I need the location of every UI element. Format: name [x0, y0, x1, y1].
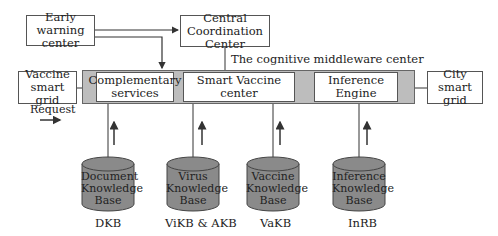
inrb-label: InRB	[348, 216, 377, 230]
dkb-label: DKB	[95, 216, 121, 230]
city-smart-grid-box: City smart grid	[427, 71, 483, 104]
vikb-akb-label: ViKB & AKB	[165, 216, 237, 230]
request-label: Request	[30, 103, 76, 116]
inference-knowledge-base-label: Inference Knowledge Base	[332, 171, 386, 207]
city-smart-grid-label: City smart grid	[428, 68, 482, 107]
smart-vaccine-center-box: Smart Vaccine center	[183, 72, 295, 102]
inference-engine-label: Inference Engine	[315, 74, 397, 100]
early-warning-center-box: Early warning center	[26, 15, 95, 46]
vakb-label: VaKB	[260, 216, 291, 230]
vaccine-smart-grid-label: Vaccine smart grid	[19, 68, 76, 107]
complementary-services-box: Complementary services	[96, 72, 174, 102]
inference-knowledge-base-cylinder: Inference Knowledge Base	[332, 156, 386, 214]
inference-engine-box: Inference Engine	[314, 72, 398, 102]
virus-knowledge-base-label: Virus Knowledge Base	[166, 171, 220, 207]
document-knowledge-base-label: Document Knowledge Base	[81, 171, 135, 207]
middleware-label: The cognitive middleware center	[231, 52, 424, 66]
central-coordination-center-label: Central Coordination Center	[181, 12, 269, 51]
complementary-services-label: Complementary services	[88, 74, 181, 100]
vaccine-knowledge-base-cylinder: Vaccine Knowledge Base	[246, 156, 300, 214]
central-coordination-center-box: Central Coordination Center	[180, 15, 270, 47]
virus-knowledge-base-cylinder: Virus Knowledge Base	[166, 156, 220, 214]
vaccine-smart-grid-box: Vaccine smart grid	[18, 71, 77, 104]
smart-vaccine-center-label: Smart Vaccine center	[184, 74, 294, 100]
document-knowledge-base-cylinder: Document Knowledge Base	[81, 156, 135, 214]
vaccine-knowledge-base-label: Vaccine Knowledge Base	[246, 171, 300, 207]
early-warning-center-label: Early warning center	[30, 11, 91, 50]
